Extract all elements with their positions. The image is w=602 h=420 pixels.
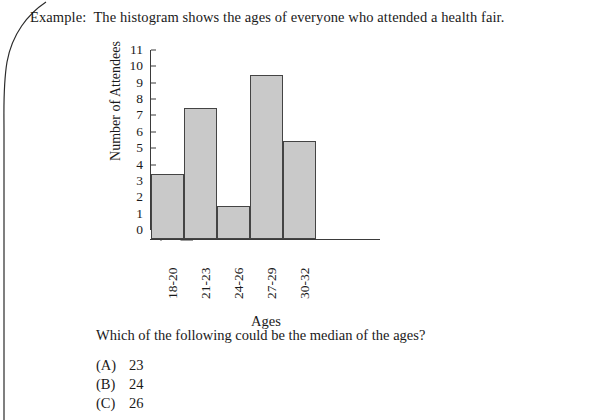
answer-choice[interactable]: (B)24 — [96, 375, 144, 394]
example-text: The histogram shows the ages of everyone… — [93, 9, 504, 25]
plot-area — [150, 45, 380, 240]
x-tick-label: 30-32 — [297, 268, 313, 300]
answer-choice-tag: (A) — [96, 356, 129, 375]
histogram-bar — [184, 108, 217, 239]
y-tick-label: 11 — [130, 43, 143, 57]
answer-choice-value: 26 — [129, 394, 144, 413]
page-edge-curl — [0, 0, 60, 420]
x-axis-tick-labels: 18-2021-2324-2627-2930-32 — [151, 245, 381, 307]
answer-choices: (A)23(B)24(C)26 — [96, 356, 144, 413]
question-text: Which of the following could be the medi… — [96, 327, 425, 344]
histogram-bar — [283, 141, 316, 239]
x-tick-label: 24-26 — [231, 268, 247, 300]
answer-choice-tag: (C) — [96, 394, 129, 413]
answer-choice-value: 24 — [129, 375, 144, 394]
histogram-bars — [151, 61, 380, 239]
y-tick-label: 5 — [136, 141, 143, 155]
y-tick-label: 4 — [136, 158, 143, 172]
y-tick-label: 1 — [136, 207, 143, 221]
histogram-bar — [151, 174, 184, 239]
histogram-bar — [217, 206, 250, 239]
y-tick-label: 10 — [130, 60, 144, 74]
y-tick-label: 7 — [136, 109, 143, 123]
answer-choice[interactable]: (C)26 — [96, 394, 144, 413]
example-prompt: Example:The histogram shows the ages of … — [30, 9, 504, 26]
example-label: Example: — [30, 9, 86, 25]
y-tick-mark — [151, 50, 156, 51]
answer-choice[interactable]: (A)23 — [96, 356, 144, 375]
histogram-bar — [250, 75, 283, 239]
y-tick-label: 3 — [136, 174, 143, 188]
answer-choice-value: 23 — [129, 356, 144, 375]
x-tick-label: 21-23 — [198, 268, 214, 300]
y-tick-label: 9 — [136, 76, 143, 90]
y-tick-label: 2 — [136, 191, 143, 205]
answer-choice-tag: (B) — [96, 375, 129, 394]
y-axis-tick-labels: 01234567891011 — [117, 45, 143, 240]
y-tick-label: 6 — [136, 125, 143, 139]
y-tick-label: 8 — [136, 92, 143, 106]
x-tick-label: 27-29 — [264, 268, 280, 300]
x-tick-label: 18-20 — [165, 268, 181, 300]
histogram-figure: Number of Attendees 01234567891011 18-20… — [95, 45, 395, 335]
y-tick-label: 0 — [136, 223, 143, 237]
